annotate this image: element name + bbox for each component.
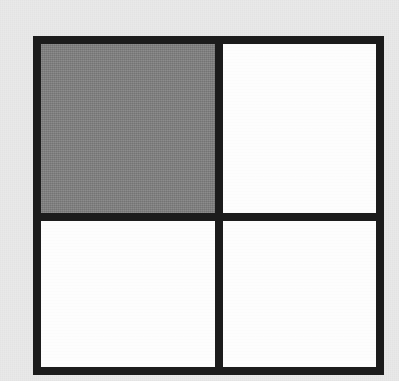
grid-cell-bottom-right[interactable] xyxy=(223,221,376,367)
grid-cell-top-left[interactable] xyxy=(41,44,215,213)
grid-cell-top-right[interactable] xyxy=(223,44,376,213)
grid-cell-bottom-left[interactable] xyxy=(41,221,215,367)
fraction-grid-figure xyxy=(33,36,384,375)
